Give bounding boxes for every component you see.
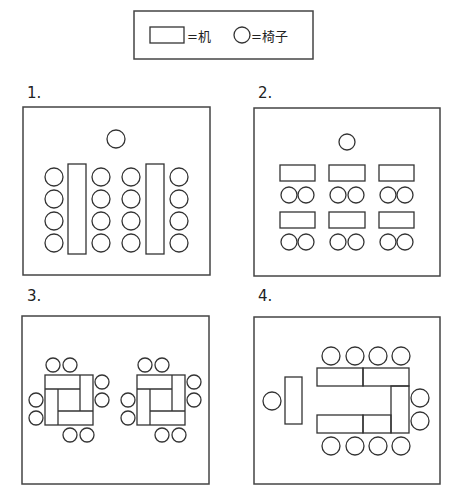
desk-cluster <box>137 375 185 425</box>
u-shaped-desks <box>317 368 409 433</box>
layout-1: 1. <box>23 84 210 275</box>
layout-4: 4. <box>254 287 440 484</box>
front-desk <box>285 377 302 424</box>
layout-4-label: 4. <box>258 287 272 305</box>
chairs <box>281 187 413 250</box>
room-frame <box>22 316 209 484</box>
desk-symbol <box>150 27 184 43</box>
desk <box>146 164 164 254</box>
desk <box>68 164 86 254</box>
seating-diagram: =机 =椅子 1. 2. <box>0 0 456 503</box>
room-frame <box>254 317 440 484</box>
desks <box>280 165 414 228</box>
chair-symbol <box>234 27 250 43</box>
layout-2-label: 2. <box>258 84 272 102</box>
layout-3: 3. <box>22 287 209 484</box>
chairs <box>121 358 201 442</box>
chairs <box>45 168 188 252</box>
front-chair <box>263 392 281 410</box>
chairs <box>322 347 429 455</box>
front-chair <box>339 134 355 150</box>
layout-2: 2. <box>254 84 440 276</box>
layout-1-label: 1. <box>27 84 41 102</box>
legend: =机 =椅子 <box>134 11 313 59</box>
front-chair <box>107 130 125 148</box>
chairs <box>29 358 109 442</box>
desk-legend-text: =机 <box>187 29 211 44</box>
desk-cluster <box>45 375 93 425</box>
chair-legend-text: =椅子 <box>251 29 288 44</box>
layout-3-label: 3. <box>27 287 41 305</box>
